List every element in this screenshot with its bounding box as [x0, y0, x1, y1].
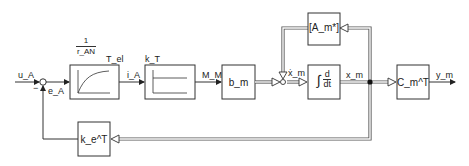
am-label: [A_m*] — [308, 22, 340, 33]
kt-label: k_T — [145, 54, 160, 64]
tel-label: T_el — [106, 54, 124, 64]
bm-label: b_m — [222, 77, 255, 88]
kt-block — [145, 65, 195, 99]
branch-point — [367, 79, 372, 84]
state-derivative-label: ẋ_m — [288, 68, 305, 78]
current-label: i_A — [127, 70, 140, 80]
pt1-gain-label: 1 r_AN — [76, 36, 96, 57]
cm-label: C_m^T — [397, 77, 429, 88]
torque-label: M_M — [202, 70, 222, 80]
state-label: x_m — [346, 70, 363, 80]
pt1-block — [70, 65, 119, 99]
error-label: e_A — [48, 86, 64, 96]
summing-junction-1 — [40, 79, 46, 85]
summing-junction-2 — [281, 80, 286, 85]
output-label: y_m — [436, 70, 453, 80]
minus-sign: − — [33, 83, 38, 93]
ke-label: k_e^T — [78, 134, 110, 145]
integrator-label: ∫ d dt — [308, 70, 340, 89]
input-label: u_A — [18, 70, 34, 80]
